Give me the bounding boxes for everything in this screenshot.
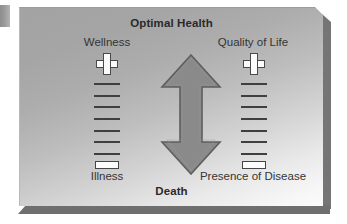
scale-tick	[94, 141, 120, 143]
label-optimal-health: Optimal Health	[20, 18, 323, 30]
panel-drop-shadow-right	[322, 14, 331, 209]
scale-tick	[241, 106, 267, 108]
diagram-panel: Optimal Health Wellness Quality of Life	[19, 7, 323, 206]
panel-drop-shadow-bottom	[18, 205, 330, 214]
scale-tick	[94, 153, 120, 155]
scale-tick	[94, 106, 120, 108]
scale-tick	[241, 118, 267, 120]
label-quality-of-life: Quality of Life	[188, 37, 318, 49]
scale-tick	[94, 130, 120, 132]
scale-tick	[241, 141, 267, 143]
left-edge-marker	[0, 5, 10, 27]
double-headed-vertical-arrow-icon	[160, 54, 222, 175]
scale-tick	[241, 153, 267, 155]
minus-icon	[242, 161, 266, 169]
plus-icon	[243, 53, 265, 75]
plus-icon	[96, 53, 118, 75]
scale-ticks	[94, 81, 120, 155]
label-illness: Illness	[42, 171, 172, 183]
scale-ticks	[241, 81, 267, 155]
label-wellness: Wellness	[42, 37, 172, 49]
scale-tick	[94, 83, 120, 85]
plus-icon-center-fill	[104, 61, 110, 67]
scale-tick	[241, 130, 267, 132]
scale-wellness-illness	[84, 53, 130, 169]
scale-tick	[94, 95, 120, 97]
label-presence-of-disease: Presence of Disease	[188, 171, 318, 183]
label-death: Death	[20, 186, 323, 198]
scale-tick	[241, 83, 267, 85]
scale-quality-of-life-presence-of-disease	[231, 53, 277, 169]
plus-icon-center-fill	[251, 61, 257, 67]
scale-tick	[241, 95, 267, 97]
minus-icon	[95, 161, 119, 169]
scale-tick	[94, 118, 120, 120]
